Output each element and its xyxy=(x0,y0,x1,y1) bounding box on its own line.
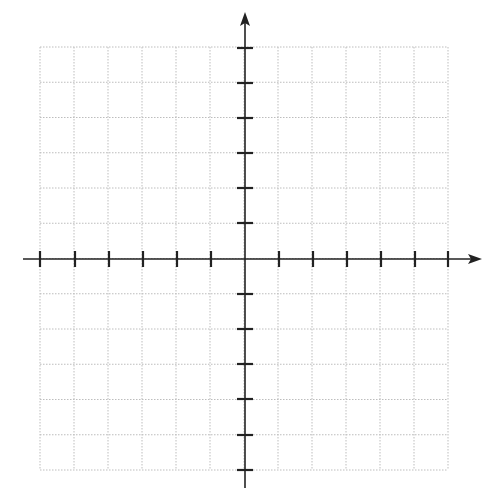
coordinate-plane xyxy=(0,0,491,495)
